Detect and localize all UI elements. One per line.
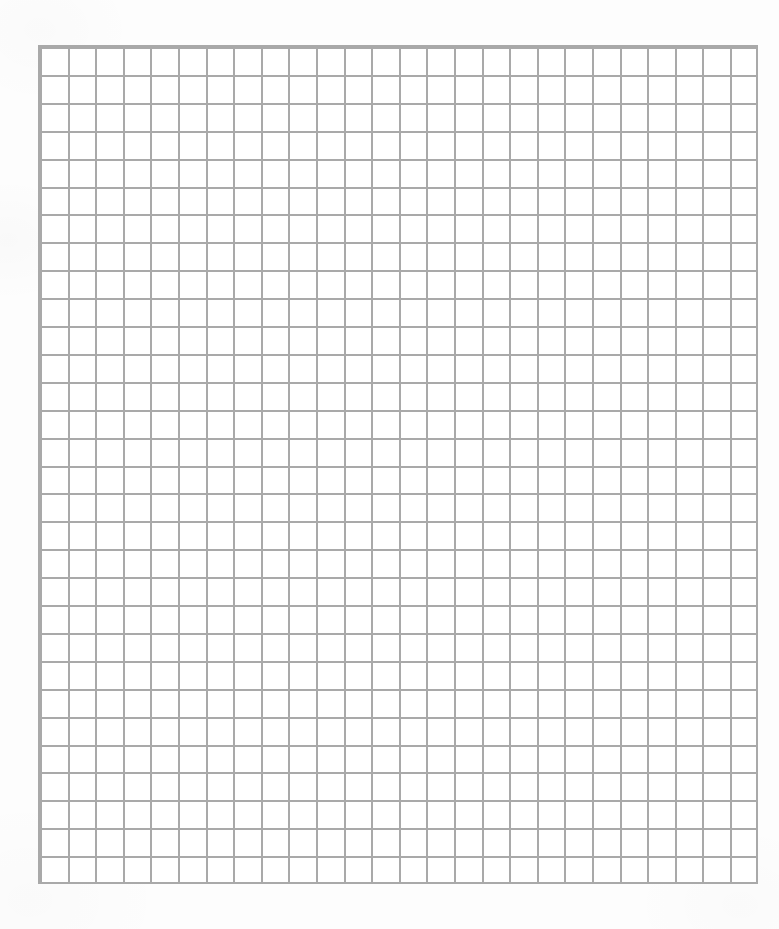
page-canvas [0,0,779,929]
grid-paper-sheet [40,47,756,882]
